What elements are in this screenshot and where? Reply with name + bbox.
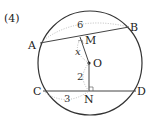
label-C: C <box>33 86 41 97</box>
brace-ON <box>83 63 89 91</box>
label-D: D <box>137 86 146 97</box>
label-N: N <box>84 94 94 105</box>
label-O: O <box>93 58 102 69</box>
label-A: A <box>28 40 36 51</box>
measure-2: 2 <box>77 72 83 82</box>
right-angle-N <box>89 87 93 91</box>
problem-number: (4) <box>4 13 20 24</box>
measure-6: 6 <box>77 20 83 30</box>
measure-x: x <box>75 47 81 57</box>
label-B: B <box>130 22 138 33</box>
label-M: M <box>85 35 96 46</box>
measure-3: 3 <box>64 94 70 104</box>
